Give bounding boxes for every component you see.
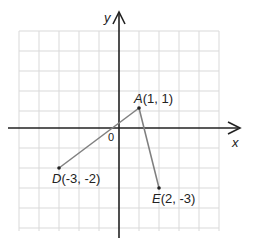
point-e-label: E(2, -3) [152,192,195,205]
origin-label: 0 [108,132,114,143]
y-axis [113,12,125,238]
point-d [57,166,61,170]
point-e [157,186,161,190]
point-d-label: D(-3, -2) [52,172,100,185]
x-axis [8,122,240,134]
point-a-label: A(1, 1) [134,92,173,105]
coordinate-plane [0,0,253,245]
point-a [137,106,141,110]
y-axis-label: y [104,11,111,24]
x-axis-label: x [232,136,239,149]
